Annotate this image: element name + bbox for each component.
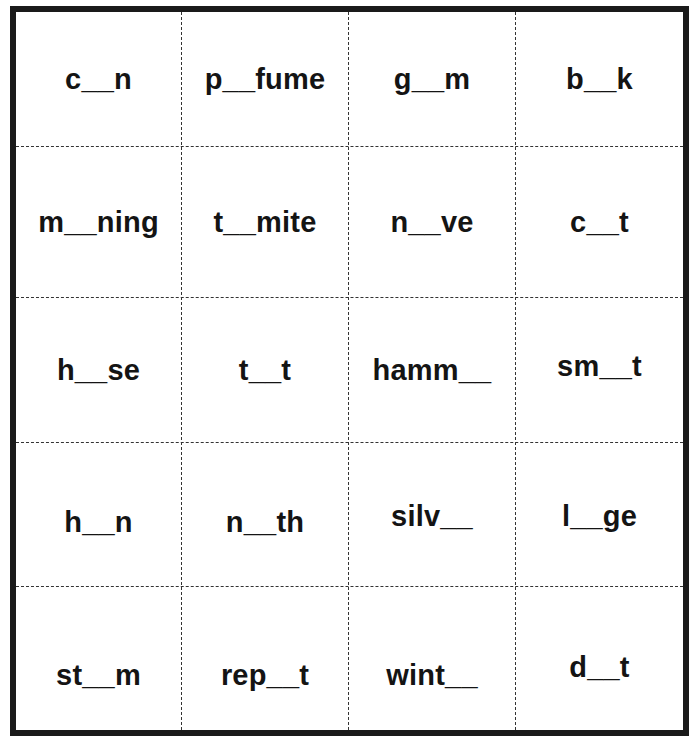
word-card: t__t: [182, 298, 348, 442]
cut-line-horizontal-4: [16, 586, 683, 587]
word-card: l__ge: [516, 452, 683, 580]
word-card-grid: c__n p__fume g__m b__k m__ning t__mite n…: [10, 6, 689, 736]
word-card: g__m: [349, 12, 515, 146]
word-card: b__k: [516, 12, 683, 146]
word-card: hamm__: [349, 298, 515, 442]
word-card: silv__: [349, 452, 515, 580]
word-card: rep__t: [182, 610, 348, 740]
word-card: n__th: [182, 458, 348, 586]
word-card: t__mite: [182, 147, 348, 297]
word-card: h__se: [16, 298, 181, 442]
word-card: n__ve: [349, 147, 515, 297]
word-card: p__fume: [182, 12, 348, 146]
word-card: sm__t: [516, 294, 683, 438]
word-card: st__m: [16, 610, 181, 740]
word-card: c__t: [516, 147, 683, 297]
word-card: m__ning: [16, 147, 181, 297]
word-card: c__n: [16, 12, 181, 146]
word-card: wint__: [349, 610, 515, 740]
word-card: d__t: [516, 602, 683, 732]
word-card: h__n: [16, 458, 181, 586]
cut-line-horizontal-3: [16, 442, 683, 443]
